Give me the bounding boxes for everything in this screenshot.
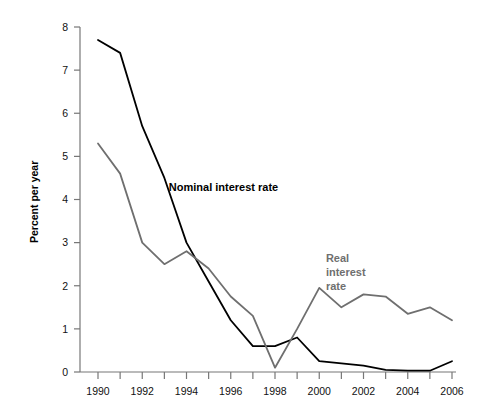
y-tick-label: 2: [62, 280, 68, 292]
real-annotation: Realinterestrate: [326, 252, 366, 292]
x-axis-ticks: 199019921994199619982000200220042006: [86, 372, 464, 397]
y-tick-label: 0: [62, 366, 68, 378]
x-tick-label: 2002: [352, 385, 376, 397]
series-annotations: Nominal interest rateRealinterestrate: [169, 181, 366, 292]
y-axis-label: Percent per year: [28, 161, 40, 243]
x-tick-label: 2004: [396, 385, 420, 397]
x-tick-label: 1994: [175, 385, 199, 397]
x-tick-label: 2006: [440, 385, 464, 397]
series-lines: [98, 40, 452, 371]
x-tick-label: 1998: [263, 385, 287, 397]
y-tick-label: 3: [62, 236, 68, 248]
x-tick-label: 1992: [131, 385, 155, 397]
chart-canvas: Percent per year 012345678 1990199219941…: [0, 0, 485, 418]
series-line-real-interest-rate: [98, 143, 452, 367]
x-tick-label: 1996: [219, 385, 243, 397]
annotation-line: interest: [326, 266, 366, 278]
annotation-line: Real: [326, 252, 349, 264]
interest-rate-line-chart: Percent per year 012345678 1990199219941…: [0, 0, 485, 418]
y-tick-label: 1: [62, 323, 68, 335]
annotation-line: Nominal interest rate: [169, 181, 278, 193]
y-tick-label: 6: [62, 107, 68, 119]
y-tick-label: 8: [62, 21, 68, 33]
y-axis-ticks: 012345678: [62, 21, 80, 378]
y-tick-label: 4: [62, 193, 68, 205]
y-tick-label: 5: [62, 150, 68, 162]
nominal-annotation: Nominal interest rate: [169, 181, 278, 193]
annotation-line: rate: [326, 280, 346, 292]
series-line-nominal-interest-rate: [98, 40, 452, 371]
x-tick-label: 1990: [86, 385, 110, 397]
x-tick-label: 2000: [308, 385, 332, 397]
y-tick-label: 7: [62, 64, 68, 76]
